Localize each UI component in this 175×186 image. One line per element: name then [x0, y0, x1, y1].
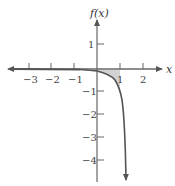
x-tick-label: 1: [117, 74, 123, 85]
x-axis-title: x: [166, 63, 173, 76]
y-tick-label: −1: [82, 86, 97, 97]
y-tick-label: −3: [82, 132, 97, 143]
graph-canvas: −3 −2 −1 1 2 1 −1 −2 −3 −4 f(x) x: [0, 0, 175, 186]
curve-left: [10, 69, 80, 70]
y-tick-label: −2: [82, 109, 97, 120]
y-tick-label: 1: [88, 39, 94, 50]
x-tick-label: −3: [23, 74, 38, 85]
y-axis-title: f(x): [89, 7, 109, 20]
x-tick-label: −2: [45, 74, 60, 85]
y-tick-label: −4: [82, 155, 97, 166]
y-ticks: [97, 44, 104, 160]
x-tick-label: 2: [140, 74, 146, 85]
function-graph: −3 −2 −1 1 2 1 −1 −2 −3 −4 f(x) x: [0, 0, 175, 186]
x-ticks: [29, 63, 143, 69]
x-tick-label: −1: [68, 74, 83, 85]
